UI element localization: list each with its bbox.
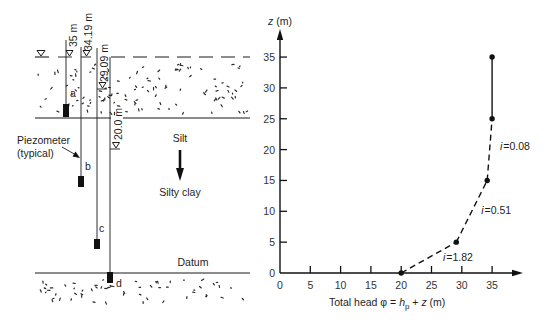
soil-speck xyxy=(52,298,54,299)
data-point xyxy=(489,116,494,121)
soil-speck xyxy=(222,97,224,98)
soil-speck xyxy=(246,111,247,112)
soil-speck xyxy=(142,67,143,68)
soil-speck xyxy=(136,86,137,87)
soil-speck xyxy=(200,69,201,70)
x-tick-label: 5 xyxy=(307,279,313,291)
soil-speck xyxy=(94,64,95,65)
x-axis-label-suffix: (m) xyxy=(427,296,446,308)
soil-speck xyxy=(155,95,156,96)
soil-speck xyxy=(75,293,77,294)
soil-speck xyxy=(125,95,126,96)
head-dimension-label: 29.09 m xyxy=(98,44,110,82)
soil-speck xyxy=(158,70,160,72)
soil-speck xyxy=(101,287,102,288)
soil-speck xyxy=(160,103,161,105)
soil-speck xyxy=(96,287,97,288)
gradient-annotation: i=0.08 xyxy=(500,140,530,152)
y-tick-label: 35 xyxy=(263,51,275,63)
water-table-marker xyxy=(35,51,49,58)
soil-speck xyxy=(74,288,75,289)
x-tick-label: 20 xyxy=(395,279,407,291)
y-axis-arrow-icon xyxy=(277,29,283,40)
soil-speck xyxy=(46,284,47,285)
soil-speck xyxy=(180,65,183,66)
soil-speck xyxy=(91,289,92,291)
base-layer-texture xyxy=(40,279,243,304)
data-point xyxy=(484,178,489,183)
piezometer-c: c 29.09 m xyxy=(94,44,110,249)
soil-speck xyxy=(221,105,222,107)
figure: a 35 m b 34.19 m c 29.09 m d xyxy=(0,0,547,324)
x-tick-label: 15 xyxy=(365,279,377,291)
soil-speck xyxy=(99,96,100,97)
datum-label: Datum xyxy=(178,256,209,268)
soil-speck xyxy=(159,78,160,79)
piezometer-tip xyxy=(107,272,113,283)
callout-arrow-icon xyxy=(73,152,81,159)
x-axis-arrow-icon xyxy=(512,270,523,276)
down-arrow-icon xyxy=(176,150,184,181)
soil-speck xyxy=(92,68,94,69)
soil-speck xyxy=(147,90,148,91)
soil-profile: a 35 m b 34.19 m c 29.09 m d xyxy=(17,13,250,304)
soil-speck xyxy=(221,297,223,298)
soil-speck xyxy=(40,106,41,107)
water-level-icon xyxy=(99,83,106,89)
gradient-value: =0.51 xyxy=(485,204,512,216)
gradient-value: =1.82 xyxy=(446,251,473,263)
layer-label-silty-clay: Silty clay xyxy=(159,186,201,198)
figure-canvas: a 35 m b 34.19 m c 29.09 m d xyxy=(0,0,547,324)
water-table-icon xyxy=(37,51,45,57)
soil-speck xyxy=(235,90,237,92)
soil-speck xyxy=(176,104,177,105)
soil-speck xyxy=(228,91,229,93)
soil-speck xyxy=(202,279,204,280)
y-tick-label: 25 xyxy=(263,113,275,125)
water-level-icon xyxy=(113,143,120,149)
soil-speck xyxy=(130,77,131,78)
soil-speck xyxy=(213,283,214,285)
soil-speck xyxy=(215,86,216,87)
soil-speck xyxy=(200,286,202,287)
gradient-annotation: i=1.82 xyxy=(443,251,473,263)
soil-speck xyxy=(227,86,229,87)
water-level-icon xyxy=(66,51,73,57)
soil-speck xyxy=(183,112,184,114)
soil-speck xyxy=(125,99,127,100)
soil-speck xyxy=(239,66,240,67)
soil-speck xyxy=(242,298,243,299)
soil-speck xyxy=(155,86,156,87)
soil-speck xyxy=(241,85,242,86)
head-dimension-label: 35 m xyxy=(67,23,79,47)
piezometer-label: d xyxy=(116,277,122,289)
soil-speck xyxy=(99,91,101,92)
soil-speck xyxy=(106,302,107,304)
data-point xyxy=(489,54,494,59)
soil-speck xyxy=(71,299,72,300)
soil-speck xyxy=(103,280,104,281)
head-dimension-label: 34.19 m xyxy=(82,13,94,51)
gradient-annotation: i=0.51 xyxy=(481,204,511,216)
callout-label-line2: (typical) xyxy=(17,147,54,159)
soil-speck xyxy=(108,97,110,98)
soil-speck xyxy=(179,69,180,71)
layer-label-silt: Silt xyxy=(173,132,188,144)
head-dimension-label: 20.0 m xyxy=(112,108,124,140)
piezometer-label: b xyxy=(85,160,91,172)
piezometer-callout: Piezometer (typical) xyxy=(17,134,80,159)
piezometer-tip xyxy=(63,104,69,117)
y-axis-label: z (m) xyxy=(267,15,292,27)
soil-speck xyxy=(206,90,207,92)
soil-speck xyxy=(83,97,84,98)
callout-label-line1: Piezometer xyxy=(17,134,71,146)
soil-speck xyxy=(45,292,46,293)
x-tick-label: 25 xyxy=(426,279,438,291)
callout-arrow-shaft xyxy=(62,147,76,155)
soil-speck xyxy=(58,70,59,72)
soil-speck xyxy=(137,71,138,73)
soil-speck xyxy=(82,103,83,104)
soil-speck xyxy=(243,112,244,114)
total-head-chart: z (m) Total head φ = hp + z (m) 05101520… xyxy=(263,15,530,311)
soil-speck xyxy=(40,290,41,292)
